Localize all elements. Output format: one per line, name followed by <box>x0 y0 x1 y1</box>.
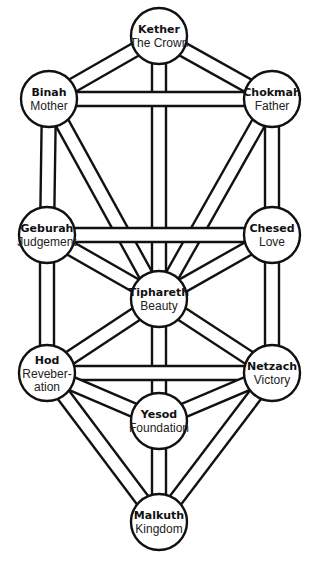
node-subtitle: Beauty <box>140 299 177 313</box>
node-subtitle: Judgement <box>17 235 77 249</box>
path-hod-netzach <box>47 366 272 380</box>
node-kether: KetherThe Crown <box>130 8 189 64</box>
node-chesed: ChesedLove <box>244 207 300 263</box>
path-geburah-chesed <box>47 228 272 242</box>
node-subtitle: Foundation <box>129 421 189 435</box>
node-title: Netzach <box>247 360 297 373</box>
node-subtitle: Kingdom <box>135 522 182 536</box>
node-malkuth: MalkuthKingdom <box>131 494 187 550</box>
node-yesod: YesodFoundation <box>129 393 189 449</box>
path-kether-tiphareth <box>152 36 166 299</box>
path-binah-chokmah <box>49 92 272 106</box>
node-geburah: GeburahJudgement <box>17 207 77 263</box>
node-hod: HodReveber-ation <box>19 345 75 401</box>
node-title: Malkuth <box>134 509 184 522</box>
path-fill <box>47 366 272 380</box>
node-subtitle: ation <box>34 380 60 394</box>
node-title: Chesed <box>249 222 294 235</box>
node-title: Geburah <box>21 222 74 235</box>
node-subtitle: Victory <box>254 373 290 387</box>
node-title: Tiphareth <box>129 286 189 299</box>
path-fill <box>47 228 272 242</box>
node-subtitle: Mother <box>30 99 67 113</box>
path-fill <box>49 92 272 106</box>
node-title: Chokmah <box>243 86 301 99</box>
node-netzach: NetzachVictory <box>244 345 300 401</box>
node-subtitle: Father <box>255 99 290 113</box>
node-subtitle: Love <box>259 235 285 249</box>
node-title: Kether <box>138 23 180 36</box>
path-fill <box>152 36 166 299</box>
node-binah: BinahMother <box>21 71 77 127</box>
node-tiphareth: TipharethBeauty <box>129 271 189 327</box>
tree-of-life-diagram: KetherThe CrownBinahMotherChokmahFatherG… <box>0 0 318 565</box>
node-chokmah: ChokmahFather <box>243 71 301 127</box>
node-title: Hod <box>35 354 60 367</box>
node-subtitle: Reveber- <box>22 367 71 381</box>
node-title: Binah <box>31 86 66 99</box>
node-subtitle: The Crown <box>130 36 189 50</box>
node-title: Yesod <box>140 408 177 421</box>
